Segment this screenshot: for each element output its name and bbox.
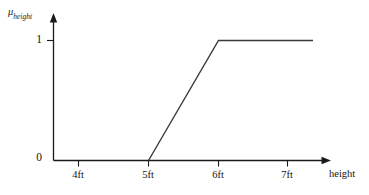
- y-axis-label-subscript: height: [13, 12, 32, 21]
- y-tick-label-0: 0: [20, 152, 42, 164]
- x-tick-label-5ft: 5ft: [126, 170, 170, 181]
- membership-function-curve: [149, 41, 314, 161]
- y-axis-arrow-icon: [50, 13, 57, 23]
- x-tick-label-4ft: 4ft: [56, 170, 100, 181]
- y-tick-label-1: 1: [20, 34, 42, 46]
- x-axis-arrow-icon: [322, 157, 332, 164]
- plot-canvas: [0, 0, 369, 195]
- membership-function-figure: μheight 1 0 4ft 5ft 6ft 7ft height: [0, 0, 369, 195]
- x-tick-label-6ft: 6ft: [196, 170, 240, 181]
- x-axis-label: height: [329, 169, 355, 180]
- y-axis-label: μheight: [8, 7, 32, 19]
- x-tick-label-7ft: 7ft: [265, 170, 309, 181]
